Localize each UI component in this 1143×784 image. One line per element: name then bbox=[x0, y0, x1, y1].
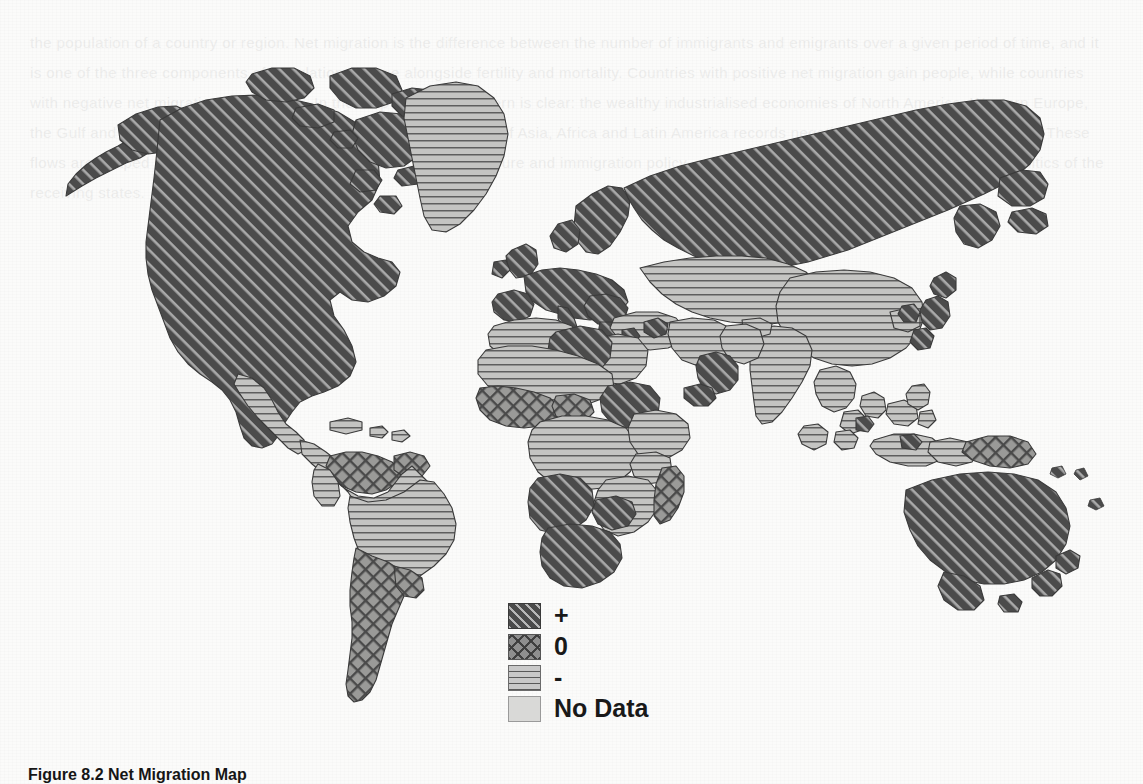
map-legend: + 0 - No Data bbox=[508, 600, 718, 724]
legend-swatch-no-data bbox=[508, 696, 541, 722]
legend-item-zero[interactable]: 0 bbox=[508, 631, 718, 662]
region-greenland bbox=[404, 82, 508, 232]
legend-swatch-zero bbox=[508, 634, 541, 660]
legend-swatch-plus bbox=[508, 603, 541, 629]
figure-caption: Figure 8.2 Net Migration Map bbox=[28, 766, 247, 784]
region-southeast-asia bbox=[798, 366, 978, 466]
figure-page: the population of a country or region. N… bbox=[0, 0, 1143, 784]
legend-swatch-minus bbox=[508, 665, 541, 691]
legend-item-no-data[interactable]: No Data bbox=[508, 693, 718, 724]
legend-item-plus[interactable]: + bbox=[508, 600, 718, 631]
legend-item-minus[interactable]: - bbox=[508, 662, 718, 693]
region-caribbean bbox=[330, 418, 410, 442]
legend-label-zero: 0 bbox=[554, 634, 568, 659]
region-new-guinea bbox=[962, 436, 1036, 468]
legend-label-no-data: No Data bbox=[554, 696, 648, 721]
legend-label-plus: + bbox=[554, 603, 569, 628]
region-russia bbox=[624, 100, 1048, 268]
legend-label-minus: - bbox=[554, 665, 562, 690]
region-southern-cone bbox=[346, 548, 424, 702]
